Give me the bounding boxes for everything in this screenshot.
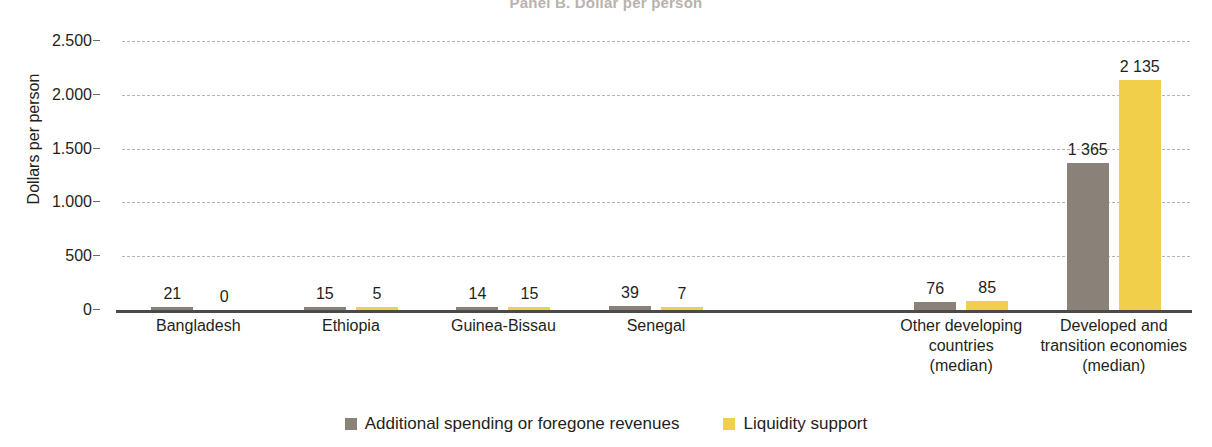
bar-value-label: 5	[372, 285, 381, 303]
y-tick-mark	[93, 201, 100, 202]
x-axis-label-line: transition economies	[1037, 336, 1190, 356]
bar-group: 1 3652 135	[1037, 41, 1190, 310]
x-axis-label-line: Other developing	[885, 316, 1038, 336]
legend-label: Additional spending or foregone revenues	[365, 414, 680, 434]
bar-slot: 7	[661, 41, 703, 310]
bar-slot: 85	[966, 41, 1008, 310]
bar-slot: 0	[203, 41, 245, 310]
bar-value-label: 76	[926, 280, 944, 298]
y-tick-label: 2.500	[12, 32, 92, 50]
bar-slot: 21	[151, 41, 193, 310]
bar-slot: 15	[304, 41, 346, 310]
legend-swatch-icon	[723, 418, 735, 430]
bar-slot	[762, 41, 804, 310]
bar-slot: 15	[508, 41, 550, 310]
bar-groups: 210155141539776851 3652 135	[122, 41, 1190, 310]
bar-slot: 76	[914, 41, 956, 310]
y-tick-label: 1.000	[12, 193, 92, 211]
bar-slot: 5	[356, 41, 398, 310]
plot-area: 05001.0001.5002.0002.500 210155141539776…	[122, 41, 1190, 310]
bar-group	[732, 41, 885, 310]
bar-value-label: 15	[521, 285, 539, 303]
x-axis-label: Senegal	[580, 316, 733, 396]
bar-value-label: 15	[316, 285, 334, 303]
bar-slot: 39	[609, 41, 651, 310]
bar[interactable]	[1119, 80, 1161, 310]
x-axis-label: Guinea-Bissau	[427, 316, 580, 396]
y-tick-label: 0	[12, 301, 92, 319]
x-axis-label-line: countries	[885, 336, 1038, 356]
chart-figure: Panel B. Dollar per person Dollars per p…	[0, 0, 1212, 447]
y-tick-mark	[93, 309, 100, 310]
bar-group: 1415	[427, 41, 580, 310]
x-axis-labels: BangladeshEthiopiaGuinea-BissauSenegalOt…	[122, 316, 1190, 396]
chart-title: Panel B. Dollar per person	[0, 0, 1212, 11]
x-axis-label-line: Ethiopia	[275, 316, 428, 336]
x-axis-label-line: Guinea-Bissau	[427, 316, 580, 336]
y-tick-mark	[93, 94, 100, 95]
x-axis-label-line: (median)	[885, 356, 1038, 376]
bar[interactable]	[966, 301, 1008, 310]
x-axis-label-line: Senegal	[580, 316, 733, 336]
x-axis-label: Ethiopia	[275, 316, 428, 396]
x-axis-label: Bangladesh	[122, 316, 275, 396]
x-axis-label	[732, 316, 885, 396]
bar-group: 210	[122, 41, 275, 310]
bar-slot: 1 365	[1067, 41, 1109, 310]
bar-value-label: 39	[621, 284, 639, 302]
bar-value-label: 2 135	[1120, 58, 1160, 76]
bar-group: 7685	[885, 41, 1038, 310]
bar-value-label: 7	[678, 285, 687, 303]
bar-value-label: 0	[220, 288, 229, 306]
x-axis-baseline	[116, 310, 1192, 313]
legend-item[interactable]: Additional spending or foregone revenues	[345, 414, 680, 434]
y-tick-label: 500	[12, 247, 92, 265]
y-tick-mark	[93, 148, 100, 149]
bar[interactable]	[914, 302, 956, 310]
x-axis-label-line: (median)	[1037, 356, 1190, 376]
legend-item[interactable]: Liquidity support	[723, 414, 867, 434]
x-axis-label: Other developingcountries(median)	[885, 316, 1038, 396]
x-axis-label-line: Developed and	[1037, 316, 1190, 336]
bar[interactable]	[1067, 163, 1109, 310]
bar-value-label: 1 365	[1068, 141, 1108, 159]
y-tick-mark	[93, 40, 100, 41]
legend-label: Liquidity support	[743, 414, 867, 434]
bar-value-label: 85	[978, 279, 996, 297]
x-axis-label-line: Bangladesh	[122, 316, 275, 336]
y-tick-mark	[93, 255, 100, 256]
y-tick-label: 2.000	[12, 86, 92, 104]
y-tick-label: 1.500	[12, 140, 92, 158]
chart-legend: Additional spending or foregone revenues…	[0, 414, 1212, 434]
bar-value-label: 14	[469, 285, 487, 303]
bar-slot: 14	[456, 41, 498, 310]
bar-value-label: 21	[163, 285, 181, 303]
legend-swatch-icon	[345, 418, 357, 430]
bar-group: 397	[580, 41, 733, 310]
bar-slot: 2 135	[1119, 41, 1161, 310]
bar-group: 155	[275, 41, 428, 310]
x-axis-label: Developed andtransition economies(median…	[1037, 316, 1190, 396]
bar-slot	[814, 41, 856, 310]
